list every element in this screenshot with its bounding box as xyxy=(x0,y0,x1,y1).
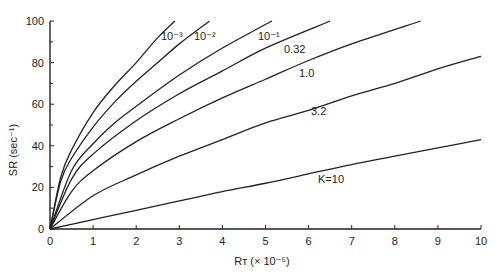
y-axis-label: SR (sec⁻¹) xyxy=(7,124,19,176)
curve-label: 10⁻² xyxy=(194,30,216,42)
y-tick-label: 60 xyxy=(32,98,44,110)
x-tick-label: 8 xyxy=(392,235,398,247)
x-tick-label: 4 xyxy=(219,235,225,247)
x-tick-label: 1 xyxy=(90,235,96,247)
y-tick-label: 80 xyxy=(32,57,44,69)
curve-32 xyxy=(50,56,481,229)
y-tick-label: 100 xyxy=(26,15,44,27)
x-tick-label: 2 xyxy=(133,235,139,247)
chart: 020406080100012345678910 10⁻³10⁻²10⁻¹0.3… xyxy=(0,0,498,277)
curve-labels: 10⁻³10⁻²10⁻¹0.321.03.2K=10 xyxy=(161,30,344,185)
curve-label: 1.0 xyxy=(299,67,314,79)
axes: 020406080100012345678910 xyxy=(26,15,487,247)
x-axis-label: Rᴛ (× 10⁻⁵) xyxy=(234,255,289,267)
x-tick-label: 3 xyxy=(176,235,182,247)
curve-label: 10⁻³ xyxy=(161,30,183,42)
curves xyxy=(50,21,481,229)
x-tick-label: 7 xyxy=(349,235,355,247)
y-tick-label: 40 xyxy=(32,140,44,152)
curve-label: K=10 xyxy=(318,173,344,185)
y-tick-label: 20 xyxy=(32,181,44,193)
y-tick-label: 0 xyxy=(38,223,44,235)
x-tick-label: 10 xyxy=(475,235,487,247)
curve-101 xyxy=(50,21,272,229)
curve-label: 3.2 xyxy=(311,105,326,117)
x-tick-label: 0 xyxy=(47,235,53,247)
x-tick-label: 5 xyxy=(262,235,268,247)
curve-label: 10⁻¹ xyxy=(258,30,280,42)
x-tick-label: 6 xyxy=(306,235,312,247)
x-tick-label: 9 xyxy=(435,235,441,247)
curve-label: 0.32 xyxy=(284,43,305,55)
curve-10 xyxy=(50,21,421,229)
